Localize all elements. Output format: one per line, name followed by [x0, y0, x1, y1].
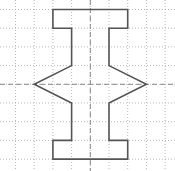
symmetry-axes	[0, 0, 175, 171]
diagram-canvas	[0, 0, 175, 171]
grid-diagram	[0, 0, 175, 171]
grid-lines	[0, 0, 175, 171]
